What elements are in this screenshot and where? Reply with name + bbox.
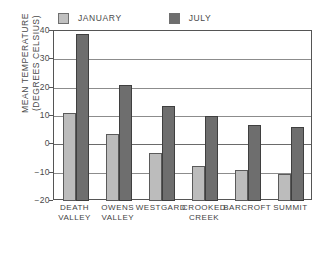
legend-entry-july: JULY: [169, 13, 212, 24]
y-tick-label-40: 40: [10, 25, 50, 35]
y-tick-label-0: 0: [10, 138, 50, 148]
legend-label-january: JANUARY: [78, 13, 122, 23]
bar-july: [291, 127, 304, 201]
y-tick-label-10: 10: [10, 110, 50, 120]
y-axis-title: MEAN TEMPERATURE (DEGREES CELSIUS): [20, 0, 42, 153]
bar-group: [140, 31, 183, 199]
y-tick-mark-40: [49, 30, 53, 31]
bar-july: [248, 125, 261, 202]
y-axis-title-line-1: MEAN TEMPERATURE: [20, 0, 31, 153]
bar-group: [227, 31, 270, 199]
x-axis-label-line: VALLEY: [90, 213, 145, 223]
bar-group: [184, 31, 227, 199]
legend-swatch-july-icon: [169, 13, 180, 24]
bar-july: [162, 106, 175, 201]
plot-area: [53, 30, 312, 200]
y-tick-mark-30: [49, 58, 53, 59]
y-tick-label-30: 30: [10, 53, 50, 63]
legend-swatch-january-icon: [58, 13, 69, 24]
bar-group: [97, 31, 140, 199]
y-axis-title-line-2: (DEGREES CELSIUS): [31, 0, 42, 153]
bar-series-container: [54, 31, 311, 199]
y-tick-mark-0: [49, 143, 53, 144]
bar-july: [119, 85, 132, 201]
x-axis-labels: DEATHVALLEYOWENSVALLEYWESTGARDCROOKEDCRE…: [53, 203, 312, 233]
bar-january: [192, 166, 205, 201]
bar-group: [54, 31, 97, 199]
y-tick-mark--10: [49, 172, 53, 173]
bar-january: [106, 134, 119, 201]
bar-january: [63, 113, 76, 201]
y-tick-mark--20: [49, 200, 53, 201]
bar-january: [235, 170, 248, 201]
x-axis-label-line: SUMMIT: [263, 203, 318, 213]
y-tick-label--20: −20: [10, 195, 50, 205]
bar-chart: JANUARY JULY MEAN TEMPERATURE (DEGREES C…: [0, 0, 322, 257]
bar-july: [76, 34, 89, 201]
legend-entry-january: JANUARY: [58, 13, 122, 24]
bar-january: [149, 153, 162, 201]
y-tick-mark-10: [49, 115, 53, 116]
bar-january: [278, 174, 291, 201]
x-axis-label: SUMMIT: [263, 203, 318, 213]
x-axis-label-line: CREEK: [177, 213, 232, 223]
legend-label-july: JULY: [189, 13, 212, 23]
bar-july: [205, 116, 218, 201]
y-tick-label-20: 20: [10, 82, 50, 92]
y-tick-label--10: −10: [10, 167, 50, 177]
bar-group: [270, 31, 313, 199]
chart-legend: JANUARY JULY: [58, 11, 211, 25]
y-tick-mark-20: [49, 87, 53, 88]
